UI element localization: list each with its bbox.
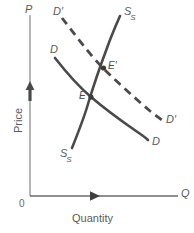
- origin-label: 0: [19, 199, 25, 209]
- supply-demand-diagram: [0, 0, 194, 233]
- demand-end-label: D: [152, 136, 160, 147]
- x-axis-title: Quantity: [72, 213, 113, 224]
- demand-shifted-end-label: D′: [166, 114, 176, 125]
- x-axis-letter: Q: [181, 188, 190, 199]
- demand-shifted-start-label: D′: [53, 6, 63, 17]
- supply-top-label: SS: [124, 6, 137, 20]
- y-axis-letter: P: [25, 4, 32, 15]
- demand-curve-d: [55, 58, 148, 140]
- supply-top-subscript: S: [130, 13, 135, 22]
- supply-curve-ss: [72, 16, 120, 148]
- equilibrium-label-e: E: [79, 91, 86, 101]
- equilibrium-label-e-prime: E′: [108, 61, 117, 71]
- equilibrium-point-e: [88, 94, 93, 99]
- supply-bottom-label: SS: [60, 148, 73, 162]
- demand-start-label: D: [50, 44, 58, 55]
- y-axis-title: Price: [13, 108, 24, 133]
- supply-bottom-subscript: S: [66, 155, 71, 164]
- equilibrium-point-e-prime: [101, 65, 106, 70]
- x-axis-arrow-icon: [90, 191, 100, 201]
- y-axis-arrow-icon: [26, 81, 35, 101]
